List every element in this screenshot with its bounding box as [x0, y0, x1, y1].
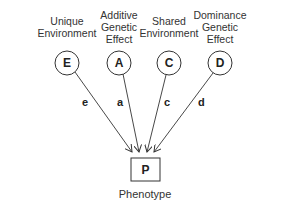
phenotype-letter: P	[131, 163, 160, 177]
phenotype-label: Phenotype	[105, 188, 185, 200]
node-A-letter: A	[109, 56, 129, 70]
path-e-arrow	[75, 72, 132, 152]
path-d-arrow	[154, 73, 213, 152]
node-E-letter: E	[57, 56, 77, 70]
path-label-c: c	[164, 96, 170, 108]
path-a-arrow	[123, 74, 139, 152]
path-label-a: a	[117, 96, 123, 108]
node-D-letter: D	[210, 56, 230, 70]
node-C-letter: C	[159, 56, 179, 70]
path-label-e: e	[82, 96, 88, 108]
ace-model-diagram	[0, 0, 281, 211]
path-label-d: d	[198, 96, 205, 108]
